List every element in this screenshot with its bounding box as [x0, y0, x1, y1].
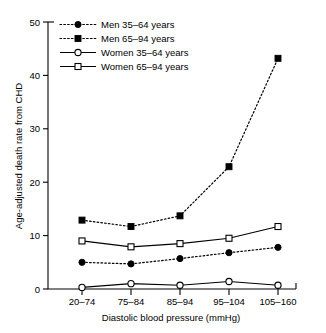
legend-label-2: Women 35–64 years	[101, 47, 189, 58]
x-axis-title: Diastolic blood pressure (mmHg)	[102, 312, 240, 323]
data-point-marker	[79, 259, 85, 265]
y-tick-label-0: 0	[35, 284, 40, 295]
legend-entry-3	[60, 64, 96, 70]
series-3	[79, 224, 281, 250]
legend-entry-2	[60, 49, 96, 55]
series-1	[79, 55, 281, 229]
data-point-marker	[226, 278, 232, 284]
data-point-marker	[79, 238, 85, 244]
legend-label-3: Women 65–94 years	[101, 61, 189, 72]
data-point-marker	[226, 235, 232, 241]
legend-entry-1	[60, 36, 96, 42]
data-point-marker	[177, 282, 183, 288]
chart-legend: Men 35–64 years Men 65–94 years Women 35…	[60, 19, 189, 72]
y-axis-title: Age-adjusted death rate from CHD	[13, 83, 24, 229]
series-line	[82, 58, 278, 226]
legend-markers	[60, 21, 96, 69]
data-point-marker	[128, 281, 134, 287]
data-point-marker	[128, 261, 134, 267]
y-tick-label-50: 50	[29, 17, 40, 28]
chart-figure: 0 10 20 30 40 50 20–74 75–84 85–94 95–10…	[0, 0, 326, 333]
data-point-marker	[177, 213, 183, 219]
data-point-marker	[226, 250, 232, 256]
x-tick-label-1: 75–84	[118, 296, 144, 307]
x-axis-ticks: 20–74 75–84 85–94 95–104 105–160	[69, 289, 297, 307]
data-point-marker	[79, 284, 85, 290]
y-tick-label-10: 10	[29, 230, 40, 241]
data-point-marker	[275, 224, 281, 230]
data-point-marker	[275, 244, 281, 250]
data-point-marker	[128, 244, 134, 250]
data-point-marker	[275, 55, 281, 61]
series-0	[79, 244, 281, 267]
x-tick-label-0: 20–74	[69, 296, 95, 307]
y-tick-label-20: 20	[29, 177, 40, 188]
series-layer	[79, 55, 281, 290]
legend-label-0: Men 35–64 years	[101, 19, 175, 30]
data-point-marker	[177, 255, 183, 261]
data-point-marker	[128, 224, 134, 230]
legend-label-1: Men 65–94 years	[101, 33, 175, 44]
data-point-marker	[75, 36, 81, 42]
data-point-marker	[75, 49, 81, 55]
x-tick-label-3: 95–104	[213, 296, 245, 307]
y-tick-label-40: 40	[29, 70, 40, 81]
y-axis-ticks: 0 10 20 30 40 50	[29, 17, 48, 295]
data-point-marker	[79, 217, 85, 223]
data-point-marker	[226, 164, 232, 170]
line-chart: 0 10 20 30 40 50 20–74 75–84 85–94 95–10…	[0, 0, 326, 333]
x-tick-label-2: 85–94	[167, 296, 193, 307]
data-point-marker	[275, 282, 281, 288]
y-tick-label-30: 30	[29, 123, 40, 134]
data-point-marker	[177, 241, 183, 247]
legend-entry-0	[60, 21, 96, 27]
data-point-marker	[75, 21, 81, 27]
x-tick-label-4: 105–160	[260, 296, 297, 307]
data-point-marker	[75, 64, 81, 70]
